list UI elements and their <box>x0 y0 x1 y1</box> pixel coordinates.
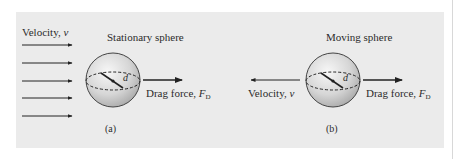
title-b: Moving sphere <box>326 32 392 43</box>
diameter-label-b: d <box>343 73 348 83</box>
caption-b: (b) <box>326 124 338 134</box>
sphere-b <box>306 53 360 107</box>
diameter-label-a: d <box>123 73 128 83</box>
velocity-label-b: Velocity, v <box>248 88 294 99</box>
drag-label-b: Drag force, FD <box>366 88 431 101</box>
title-a: Stationary sphere <box>107 32 184 43</box>
sphere-a <box>86 53 140 107</box>
velocity-label-a: Velocity, v <box>22 27 68 38</box>
drag-label-a: Drag force, FD <box>146 88 211 101</box>
caption-a: (a) <box>105 124 116 134</box>
drag-diagram <box>0 0 461 159</box>
flow-arrows-a <box>22 45 72 116</box>
